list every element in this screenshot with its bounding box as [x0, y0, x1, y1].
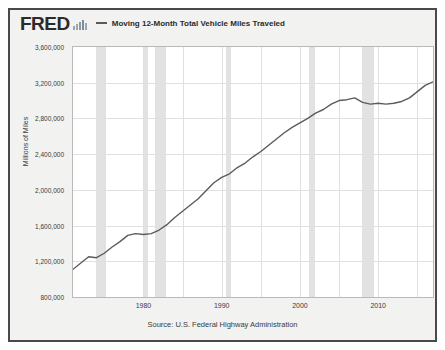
chart-header: FRED Moving 12-Month Total Vehicle Miles…	[10, 10, 435, 36]
source-note: Source: U.S. Federal Highway Administrat…	[10, 320, 435, 329]
legend-color-swatch	[96, 22, 107, 24]
y-axis-title: Millions of Miles	[22, 97, 29, 187]
series-line-vmt	[73, 47, 433, 297]
plot-area	[72, 46, 434, 298]
y-tick-label: 3,600,000	[35, 44, 68, 51]
legend-entry-vmt: Moving 12-Month Total Vehicle Miles Trav…	[96, 19, 285, 28]
fred-logo: FRED	[20, 14, 70, 33]
x-tick-label: 2010	[370, 302, 386, 309]
y-tick-label: 2,800,000	[35, 115, 68, 122]
legend-label: Moving 12-Month Total Vehicle Miles Trav…	[112, 19, 285, 28]
x-tick-label: 1990	[214, 302, 230, 309]
y-tick-label: 1,600,000	[35, 222, 68, 229]
x-tick-label: 2000	[292, 302, 308, 309]
y-tick-label: 1,200,000	[35, 258, 68, 265]
bar-chart-icon	[73, 16, 87, 34]
y-tick-label: 3,200,000	[35, 79, 68, 86]
x-axis-ticks: 1980199020002010	[72, 302, 434, 314]
x-tick-label: 1980	[136, 302, 152, 309]
y-tick-label: 800,000	[41, 294, 69, 301]
y-tick-label: 2,000,000	[35, 186, 68, 193]
y-tick-label: 2,400,000	[35, 151, 68, 158]
fred-chart-frame: FRED Moving 12-Month Total Vehicle Miles…	[8, 8, 437, 342]
y-axis-ticks: 3,600,0003,200,0002,800,0002,400,0002,00…	[10, 46, 68, 298]
